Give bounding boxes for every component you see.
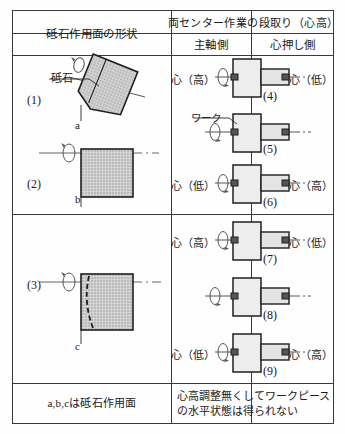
- setup-row-4: 心（高） 心（低） (4): [171, 55, 335, 108]
- figure-block-2: (2) b: [13, 135, 171, 214]
- workpiece-setup-5: [171, 108, 335, 161]
- header-tailstock-side: 心押し側: [251, 33, 335, 55]
- setup-row-5: ワーク (5): [171, 108, 335, 161]
- tilted-wheel-diagram: [13, 55, 171, 135]
- setup-row-8: (8): [171, 270, 335, 326]
- figure-block-3: (3) c: [13, 214, 171, 383]
- footer-note-left: a,b,cは砥石作用面: [13, 383, 171, 424]
- setup-row-6: 心（低） 心（高） (6): [171, 161, 335, 214]
- setup-row-9: 心（低） 心（高） (9): [171, 326, 335, 383]
- workpiece-setup-6: [171, 161, 335, 214]
- workpiece-setup-8: [171, 270, 335, 326]
- reference-table: 砥石作用面の形状 両センター作業の段取り（心高） 主軸側 心押し側 (1) 砥石…: [12, 10, 334, 424]
- straight-wheel-diagram: [13, 135, 171, 214]
- header-right-column: 両センター作業の段取り（心高）: [171, 11, 335, 33]
- figure-page: 砥石作用面の形状 両センター作業の段取り（心高） 主軸側 心押し側 (1) 砥石…: [0, 0, 345, 434]
- workpiece-setup-7: [171, 214, 335, 270]
- workpiece-setup-4: [171, 55, 335, 108]
- setup-row-7: 心（高） 心（低） (7): [171, 214, 335, 270]
- workpiece-setup-9: [171, 326, 335, 383]
- footer-note-right-line1: 心高調整無くしてワークピース: [177, 389, 330, 404]
- figure-block-1: (1) 砥石 a: [13, 55, 171, 135]
- footer-note-right: 心高調整無くしてワークピース の水平状態は得られない: [171, 383, 335, 424]
- curved-wheel-diagram: [13, 214, 171, 383]
- header-spindle-side: 主軸側: [171, 33, 251, 55]
- header-left-column: 砥石作用面の形状: [13, 11, 171, 55]
- footer-note-right-line2: の水平状態は得られない: [177, 404, 330, 419]
